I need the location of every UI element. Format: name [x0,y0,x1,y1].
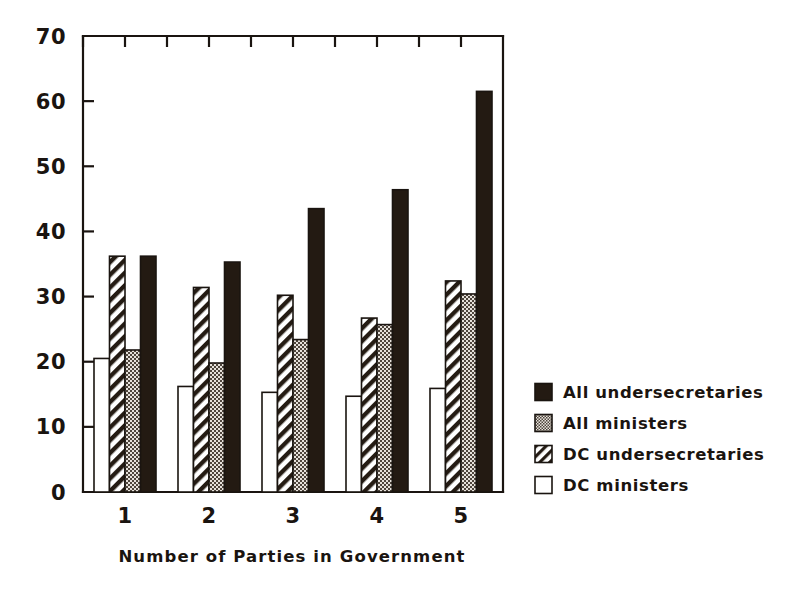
y-axis-tick-label: 30 [36,285,66,309]
x-axis-tick-label: 5 [453,504,468,528]
bar [446,281,462,492]
bar [94,358,110,492]
bar [225,262,241,492]
legend-label: DC undersecretaries [563,445,765,464]
legend-item: All undersecretaries [535,383,763,402]
y-axis-tick-label: 70 [36,25,66,49]
bar-group [430,91,492,492]
bar [309,209,325,492]
y-axis-tick-label: 0 [51,481,66,505]
x-axis-title: Number of Parties in Government [118,547,465,566]
bar [209,363,225,492]
bar [461,294,477,492]
bar [477,91,493,492]
bars-layer [94,91,492,492]
bar [377,325,393,492]
legend-swatch [535,446,552,463]
y-axis-tick-label: 10 [36,415,66,439]
bar [393,190,409,492]
bar [362,318,378,492]
bar-group [262,209,324,492]
x-axis-tick-label: 3 [285,504,300,528]
bar [110,256,126,492]
bar [430,388,446,492]
chart-canvas: 010203040506070 12345 Number of Parties … [0,0,796,595]
y-axis-tick-label: 40 [36,220,66,244]
x-axis-tick-label: 1 [117,504,132,528]
y-axis-tick-label: 50 [36,155,66,179]
legend-item: DC ministers [535,476,689,495]
bar-group [346,190,408,492]
bar-group [94,256,156,492]
y-axis-tick-label: 60 [36,90,66,114]
legend-label: DC ministers [563,476,689,495]
bar [346,396,362,492]
bar [262,392,278,492]
bar [141,256,157,492]
bar [178,386,194,492]
legend-swatch [535,384,552,401]
legend-label: All undersecretaries [563,383,763,402]
x-axis-tick-label: 2 [201,504,216,528]
legend-swatch [535,477,552,494]
bar-chart-figure: 010203040506070 12345 Number of Parties … [0,0,796,595]
legend-label: All ministers [563,414,688,433]
bar [125,350,141,492]
legend-item: All ministers [535,414,688,433]
x-axis-tick-label: 4 [369,504,384,528]
y-axis-tick-label: 20 [36,350,66,374]
bar [194,287,210,492]
top-axis-ticks [83,36,461,47]
legend-item: DC undersecretaries [535,445,765,464]
chart-legend: All undersecretariesAll ministersDC unde… [535,383,765,495]
bar [293,340,309,492]
legend-swatch [535,415,552,432]
bar [278,295,294,492]
y-axis: 010203040506070 [36,25,94,505]
bar-group [178,262,240,492]
